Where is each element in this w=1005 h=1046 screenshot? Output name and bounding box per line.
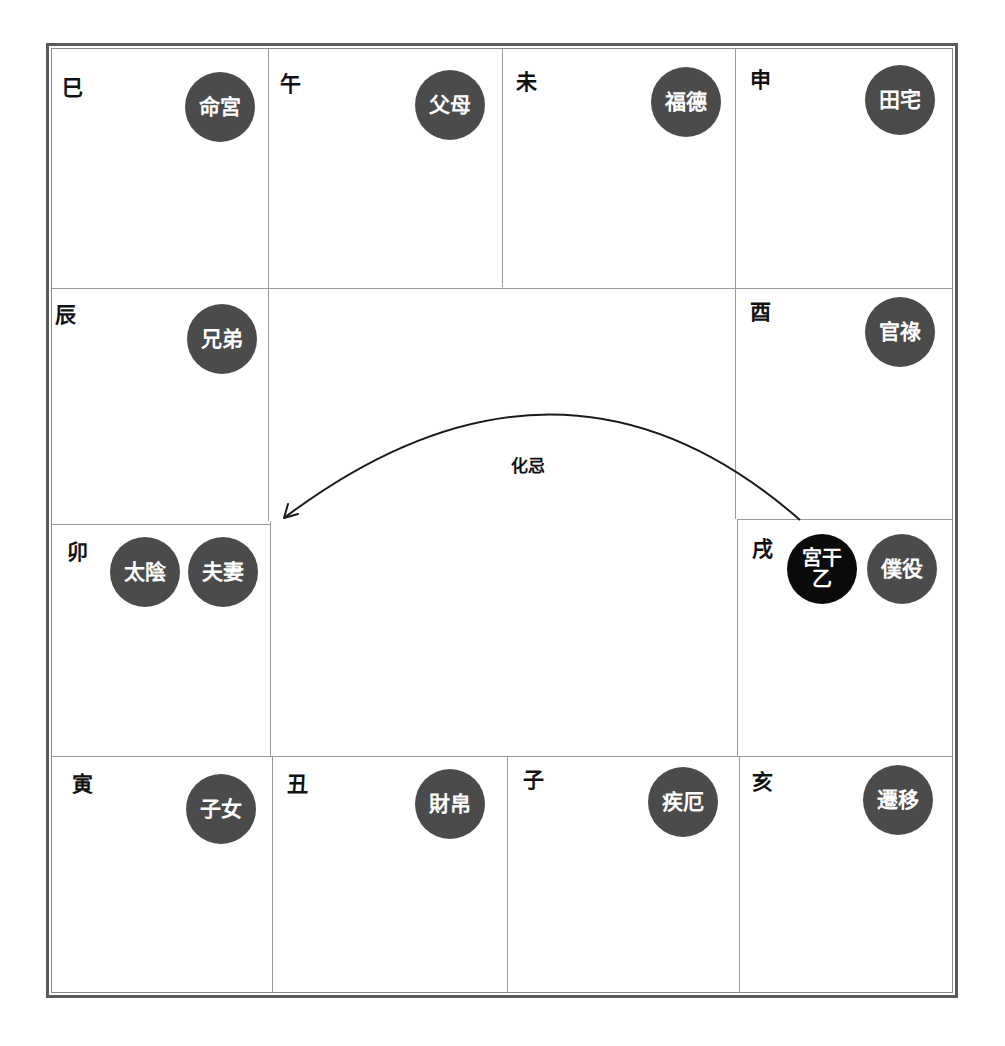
transformation-arrow (0, 0, 1005, 1046)
arrow-label: 化忌 (511, 452, 545, 477)
